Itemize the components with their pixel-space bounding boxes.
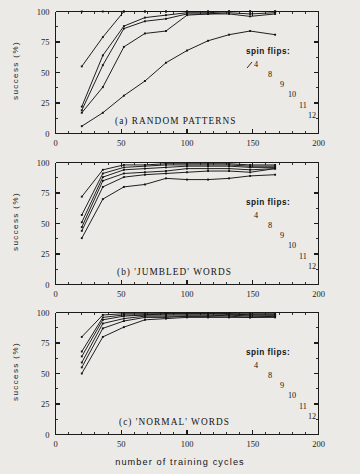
x-tick-label: 0 <box>53 138 57 148</box>
data-point <box>249 316 251 318</box>
data-point <box>102 323 104 325</box>
data-point <box>274 34 276 36</box>
data-point <box>81 11 83 13</box>
data-point <box>102 319 104 321</box>
x-tick-label: 200 <box>312 439 325 449</box>
data-point <box>186 14 188 16</box>
data-point <box>144 20 146 22</box>
panel-b-y-axis-label: success (%) <box>11 192 20 251</box>
data-point <box>207 316 209 318</box>
figure-three-panel-success-plot: 0255075100050100150200 (a) RANDOM PATTER… <box>0 0 360 474</box>
data-point <box>102 11 104 13</box>
data-point <box>123 315 125 317</box>
data-point <box>144 184 146 186</box>
legend-label-4: 4 <box>254 211 258 220</box>
panel-a-legend: spin flips:489101112 <box>246 47 316 120</box>
data-point <box>102 336 104 338</box>
data-point <box>81 214 83 216</box>
data-point <box>81 351 83 353</box>
data-point <box>186 50 188 52</box>
legend-label-10: 10 <box>288 90 296 99</box>
data-point <box>123 326 125 328</box>
y-tick-label: 25 <box>41 98 50 108</box>
panel-a-caption: (a) RANDOM PATTERNS <box>115 116 236 127</box>
series-line-9 <box>82 12 275 107</box>
data-point <box>228 170 230 172</box>
data-point <box>144 171 146 173</box>
series-line-11 <box>82 316 275 367</box>
data-point <box>165 164 167 166</box>
legend-title: spin flips: <box>246 47 290 56</box>
data-point <box>165 318 167 320</box>
data-point <box>186 179 188 181</box>
y-tick-label: 0 <box>45 280 49 290</box>
data-point <box>165 14 167 16</box>
data-point <box>249 166 251 168</box>
y-tick-label: 100 <box>37 308 50 318</box>
panel-c-caption: (c) 'NORMAL' WORDS <box>119 417 230 428</box>
data-point <box>207 168 209 170</box>
data-point <box>81 362 83 364</box>
series-line-8 <box>82 314 275 352</box>
panel-c-normal-words: 0255075100050100150200 (c) 'NORMAL' WORD… <box>0 301 360 474</box>
y-tick-label: 75 <box>41 338 50 348</box>
panel-c-legend: spin flips:489101112 <box>246 348 316 421</box>
x-tick-label: 0 <box>53 289 57 299</box>
data-point <box>207 179 209 181</box>
data-point <box>228 165 230 167</box>
data-point <box>123 11 125 13</box>
legend-label-8: 8 <box>268 371 272 380</box>
data-point <box>144 319 146 321</box>
data-point <box>81 125 83 127</box>
data-point <box>123 169 125 171</box>
data-point <box>165 18 167 20</box>
data-point <box>144 17 146 19</box>
data-point <box>228 177 230 179</box>
data-point <box>144 316 146 318</box>
panel-a-legend-pointer <box>247 62 252 68</box>
data-point <box>102 173 104 175</box>
data-point <box>81 226 83 228</box>
legend-label-11: 11 <box>299 402 307 411</box>
data-point <box>144 168 146 170</box>
data-point <box>102 86 104 88</box>
data-point <box>123 176 125 178</box>
legend-label-9: 9 <box>280 80 284 89</box>
data-point <box>207 170 209 172</box>
data-point <box>123 320 125 322</box>
data-point <box>81 65 83 67</box>
data-point <box>123 28 125 30</box>
data-point <box>249 13 251 15</box>
data-point <box>123 164 125 166</box>
panel-c-svg: 0255075100050100150200 (c) 'NORMAL' WORD… <box>0 301 360 474</box>
data-point <box>81 355 83 357</box>
data-point <box>249 15 251 17</box>
legend-label-10: 10 <box>288 391 296 400</box>
x-tick-label: 100 <box>181 138 194 148</box>
y-tick-label: 100 <box>37 7 50 17</box>
x-tick-label: 0 <box>53 439 57 449</box>
data-point <box>102 112 104 114</box>
data-point <box>123 166 125 168</box>
data-point <box>81 196 83 198</box>
x-tick-label: 50 <box>117 439 126 449</box>
series-line-12 <box>82 31 275 126</box>
y-tick-label: 75 <box>41 37 50 47</box>
y-tick-label: 25 <box>41 399 50 409</box>
panel-b-jumbled-words: 0255075100050100150200 (b) 'JUMBLED' WOR… <box>0 150 360 301</box>
panel-c-y-axis-label: success (%) <box>11 342 20 401</box>
panel-b-svg: 0255075100050100150200 (b) 'JUMBLED' WOR… <box>0 150 360 301</box>
data-point <box>249 169 251 171</box>
series-line-8 <box>82 12 275 67</box>
data-point <box>81 373 83 375</box>
data-point <box>249 175 251 177</box>
y-tick-label: 0 <box>45 129 49 139</box>
x-tick-label: 200 <box>312 138 325 148</box>
x-tick-label: 100 <box>181 289 194 299</box>
data-point <box>123 46 125 48</box>
data-point <box>165 11 167 13</box>
x-tick-label: 200 <box>312 289 325 299</box>
data-point <box>102 64 104 66</box>
data-point <box>186 316 188 318</box>
data-point <box>102 314 104 316</box>
